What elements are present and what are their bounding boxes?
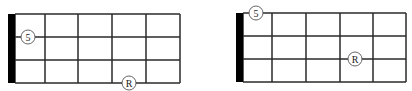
marker-label: R xyxy=(126,78,133,89)
note-marker-root: R xyxy=(348,52,362,66)
right-fretboard: 5R xyxy=(236,6,406,82)
marker-label: 5 xyxy=(26,32,31,43)
marker-label: R xyxy=(352,54,359,65)
left-fretboard: 5R xyxy=(8,14,180,90)
marker-label: 5 xyxy=(254,8,259,19)
note-marker-fifth: 5 xyxy=(21,30,35,44)
nut-bar xyxy=(8,14,15,83)
fretboard-diagrams: 5R5R xyxy=(0,0,412,91)
nut-bar xyxy=(236,13,243,82)
note-marker-fifth: 5 xyxy=(249,6,263,20)
note-marker-root: R xyxy=(122,76,136,90)
